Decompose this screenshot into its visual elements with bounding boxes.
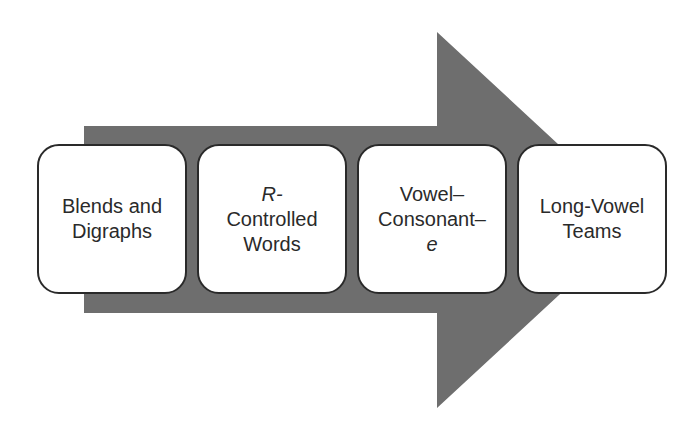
step-box-long-vowel-teams: Long-Vowel Teams [517, 144, 667, 294]
step-box-vowel-consonant-e: Vowel– Consonant– e [357, 144, 507, 294]
step-label-line: Vowel– [378, 182, 486, 207]
step-label-line: Words [226, 232, 317, 257]
step-label-line: Teams [540, 219, 645, 244]
step-label-line: Blends and [62, 194, 162, 219]
step-label-line: Consonant– [378, 207, 486, 232]
step-box-r-controlled-words: R- Controlled Words [197, 144, 347, 294]
step-label-line: Long-Vowel [540, 194, 645, 219]
step-label-line: R- [226, 182, 317, 207]
step-box-blends-digraphs: Blends and Digraphs [37, 144, 187, 294]
step-label-line: Digraphs [62, 219, 162, 244]
step-label-line: Controlled [226, 207, 317, 232]
step-label-line: e [378, 232, 486, 257]
